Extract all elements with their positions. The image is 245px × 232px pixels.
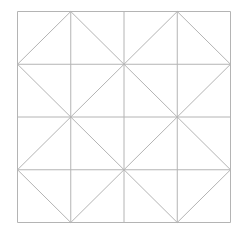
diamond-edge <box>18 64 71 117</box>
grid-diagram <box>0 0 245 232</box>
diamond-edge <box>18 170 71 223</box>
diamond-edge <box>177 64 230 117</box>
grid-lines <box>18 12 231 223</box>
diamond-edge <box>177 117 230 170</box>
diamond-edge <box>71 64 124 117</box>
diamond-edge <box>177 170 230 223</box>
diamond-edge <box>71 12 124 65</box>
diamond-edge <box>71 117 124 170</box>
diamond-edge <box>177 12 230 65</box>
diamond-edge <box>71 170 124 223</box>
diamond-edge <box>124 170 177 223</box>
diamond-edge <box>124 117 177 170</box>
diamond-edge <box>18 12 71 65</box>
diamond-edge <box>124 64 177 117</box>
diamond-edge <box>124 12 177 65</box>
diamond-edge <box>18 117 71 170</box>
